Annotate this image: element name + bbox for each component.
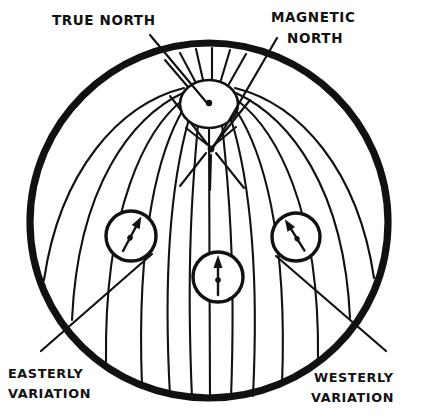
polar-spoke (180, 53, 196, 83)
compass-easterly (106, 211, 156, 261)
polar-spoke (221, 50, 230, 80)
polar-spoke (196, 49, 203, 80)
polar-spoke (229, 54, 246, 84)
magnetic-spoke (216, 153, 244, 188)
compass-center-pivot-dot (215, 277, 221, 283)
label-westerly-variation-line2: VARIATION (311, 390, 394, 405)
label-true-north: TRUE NORTH (52, 12, 156, 28)
label-easterly-variation-line2: VARIATION (8, 386, 91, 401)
diagram-canvas: TRUE NORTH MAGNETIC NORTH EASTERLY VARIA… (0, 0, 424, 417)
meridian-line (236, 93, 350, 318)
magnetic-variation-diagram: TRUE NORTH MAGNETIC NORTH EASTERLY VARIA… (0, 0, 424, 417)
label-westerly-variation-line1: WESTERLY (314, 370, 394, 385)
compass-center (193, 252, 243, 302)
polar-spoke (165, 60, 188, 87)
magnetic-spoke (210, 155, 211, 190)
easterly-variation-leader-line (41, 254, 152, 351)
meridian-line (168, 119, 189, 396)
label-magnetic-north-line1: MAGNETIC (271, 9, 355, 25)
label-easterly-variation-line1: EASTERLY (8, 366, 84, 381)
meridian-lines-group (44, 88, 374, 398)
compass-westerly (272, 213, 320, 261)
label-magnetic-north-line2: NORTH (287, 30, 343, 46)
